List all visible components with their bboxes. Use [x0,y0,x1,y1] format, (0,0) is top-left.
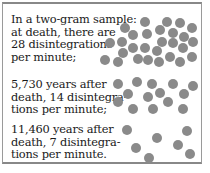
atom-dot [143,55,153,65]
atom-dot [178,104,188,114]
atom-dot [140,17,150,27]
atom-dot [123,89,133,99]
atom-dot [144,153,154,163]
atom-dot [188,81,198,91]
atom-dot [128,30,138,40]
atom-dot [152,133,162,143]
atom-dot [187,52,197,62]
atom-dot [148,104,158,114]
atom-dot [187,23,197,33]
atom-dot [168,79,178,89]
atom-dot [188,37,198,47]
atom-dot [152,46,162,56]
atom-dot [122,125,132,135]
atom-dot [175,57,185,67]
atom-dot [105,38,115,48]
atom-dot [128,43,138,53]
atom-dot [113,97,123,107]
atom-dot [182,126,192,136]
atom-dot [155,88,165,98]
atom-dot [142,29,152,39]
atom-dot [113,57,123,67]
atom-dot [100,55,110,65]
atom-dot [154,57,164,67]
atom-dot [133,54,143,64]
atom-dot [165,52,175,62]
atom-dot [143,92,153,102]
atom-dot [163,97,173,107]
atom-dot [185,149,195,159]
atom-dot [178,43,188,53]
atom-dot [113,79,123,89]
atom-dot [131,143,141,153]
atom-dot [128,104,138,114]
atom-dot [132,77,142,87]
atom-dot [117,37,127,47]
caption-5730-years: 5,730 years after death, 14 disintegra- … [11,78,127,116]
atom-dot [155,25,165,35]
atom-dot [147,79,157,89]
atom-dot [140,43,150,53]
atom-dot [175,18,185,28]
caption-11460-years: 11,460 years after death, 7 disintegra- … [11,123,120,161]
atom-dot [173,140,183,150]
atom-dot [168,28,178,38]
atom-dot [179,89,189,99]
atom-dot [168,38,178,48]
